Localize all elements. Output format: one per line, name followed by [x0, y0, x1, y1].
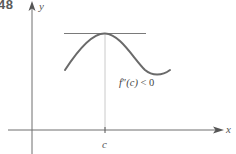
figure: 48 x y c f″(c) < 0	[0, 0, 236, 154]
concavity-diagram: x y c f″(c) < 0	[0, 0, 236, 154]
second-derivative-annotation: f″(c) < 0	[119, 77, 154, 89]
annotation-arg: (c)	[126, 77, 138, 89]
function-curve	[65, 33, 170, 74]
annotation-relation: < 0	[138, 77, 154, 88]
x-axis-label: x	[225, 123, 231, 135]
c-label: c	[102, 138, 107, 150]
y-axis-label: y	[38, 0, 44, 12]
